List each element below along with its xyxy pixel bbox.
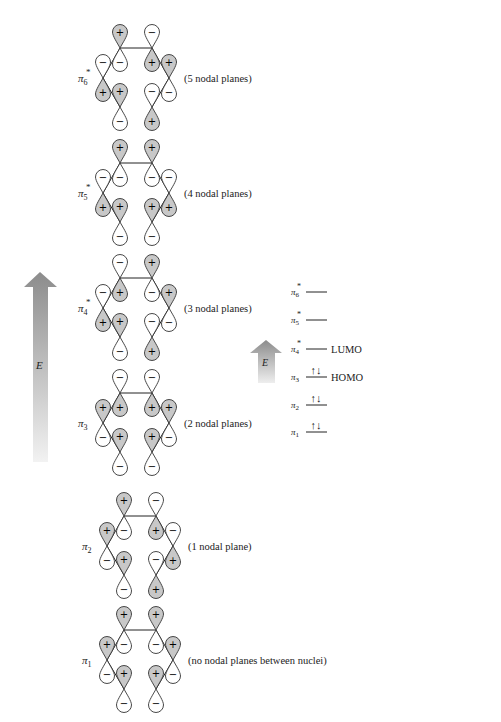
phase-sign: − — [120, 639, 128, 650]
energy-diagram-axis-label: E — [261, 357, 268, 368]
orbital-stack: +−−++−−++−−+π6*(5 nodal planes)+−−++−+−−… — [78, 25, 327, 713]
phase-sign: + — [152, 525, 160, 536]
phase-sign: − — [120, 525, 128, 536]
phase-sign: + — [169, 639, 177, 650]
phase-sign: + — [99, 402, 107, 413]
phase-sign: + — [148, 431, 156, 442]
phase-sign: − — [165, 172, 173, 183]
orbital-label: π3 — [78, 417, 88, 432]
antibonding-star: * — [297, 339, 301, 348]
phase-sign: − — [148, 27, 156, 38]
phase-sign: − — [116, 346, 124, 357]
nodal-plane-note: (4 nodal planes) — [184, 188, 252, 200]
phase-sign: − — [165, 432, 173, 443]
phase-sign: − — [148, 86, 156, 97]
phase-sign: − — [120, 698, 128, 709]
antibonding-star: * — [297, 310, 301, 319]
phase-sign: − — [169, 669, 177, 680]
energy-axis-label: E — [35, 359, 43, 371]
level-tag-lumo: LUMO — [331, 344, 362, 355]
orbital-pi2: +−+−+−−+−+−+π2(1 nodal plane) — [82, 493, 252, 599]
orbital-label: π2 — [82, 540, 92, 555]
phase-sign: + — [116, 201, 124, 212]
level-label: π1 — [291, 427, 300, 439]
nodal-plane-note: (2 nodal planes) — [184, 418, 252, 430]
phase-sign: + — [152, 609, 160, 620]
antibonding-star: * — [297, 282, 301, 291]
phase-sign: + — [120, 609, 128, 620]
phase-sign: − — [165, 87, 173, 98]
phase-sign: − — [116, 116, 124, 127]
phase-sign: + — [99, 87, 107, 98]
phase-sign: − — [116, 172, 124, 183]
phase-sign: + — [148, 116, 156, 127]
phase-sign: − — [148, 231, 156, 242]
energy-level-π6: π6* — [291, 282, 327, 299]
phase-sign: − — [152, 495, 160, 506]
energy-level-π3: π3↑↓HOMO — [291, 364, 364, 384]
phase-sign: − — [103, 555, 111, 566]
phase-sign: + — [116, 402, 124, 413]
phase-sign: − — [99, 432, 107, 443]
phase-sign: − — [148, 461, 156, 472]
antibonding-star: * — [86, 297, 91, 307]
phase-sign: + — [165, 402, 173, 413]
phase-sign: + — [116, 316, 124, 327]
phase-sign: + — [120, 495, 128, 506]
phase-sign: + — [148, 142, 156, 153]
phase-sign: − — [152, 698, 160, 709]
phase-sign: − — [99, 287, 107, 298]
phase-sign: + — [148, 57, 156, 68]
phase-sign: + — [165, 287, 173, 298]
antibonding-star: * — [86, 67, 91, 77]
phase-sign: + — [148, 402, 156, 413]
orbital-pi6: +−−++−−++−−+π6*(5 nodal planes) — [78, 25, 252, 131]
nodal-plane-note: (5 nodal planes) — [184, 73, 252, 85]
energy-level-π1: π1↑↓ — [291, 419, 327, 439]
phase-sign: − — [152, 639, 160, 650]
nodal-plane-note: (no nodal planes between nuclei) — [188, 655, 327, 667]
orbital-pi5: +−−++−+−−++−π5*(4 nodal planes) — [78, 140, 252, 246]
phase-sign: − — [169, 525, 177, 536]
nodal-plane-note: (1 nodal plane) — [188, 541, 252, 553]
phase-sign: + — [116, 86, 124, 97]
level-label: π3 — [291, 372, 300, 384]
orbital-pi3: +−+−−+−++−+−π3(2 nodal planes) — [78, 370, 252, 476]
phase-sign: + — [99, 202, 107, 213]
phase-sign: − — [99, 172, 107, 183]
orbital-label: π1 — [82, 654, 92, 669]
phase-sign: − — [99, 57, 107, 68]
orbital-pi4: +−−+−++−+−−+π4*(3 nodal planes) — [78, 255, 252, 361]
phase-sign: + — [152, 584, 160, 595]
phase-sign: − — [120, 584, 128, 595]
phase-sign: + — [99, 317, 107, 328]
phase-sign: + — [165, 202, 173, 213]
energy-arrow-large: E — [24, 272, 57, 462]
energy-arrow-small: E — [250, 340, 282, 383]
energy-level-π5: π5* — [291, 310, 327, 327]
phase-sign: − — [148, 316, 156, 327]
phase-sign: + — [103, 525, 111, 536]
phase-sign: + — [120, 668, 128, 679]
phase-sign: − — [116, 461, 124, 472]
phase-sign: − — [148, 372, 156, 383]
energy-level-π4: π4*LUMO — [291, 339, 362, 356]
orbital-pi1: +−+−+−+−+−+−π1(no nodal planes between n… — [82, 607, 327, 713]
electron-pair-icon: ↑↓ — [311, 419, 322, 431]
energy-level-π2: π2↑↓ — [291, 392, 327, 412]
level-label: π2 — [291, 400, 300, 412]
electron-pair-icon: ↑↓ — [311, 364, 322, 376]
phase-sign: + — [120, 554, 128, 565]
phase-sign: + — [103, 639, 111, 650]
phase-sign: + — [148, 346, 156, 357]
phase-sign: + — [116, 27, 124, 38]
phase-sign: − — [116, 57, 124, 68]
phase-sign: + — [148, 257, 156, 268]
phase-sign: − — [103, 669, 111, 680]
hexatriene-mo-diagram: E +−−++−−++−−+π6*(5 nodal planes)+−−++−+… — [0, 0, 501, 722]
energy-level-diagram: π6*π5*π4*LUMOπ3↑↓HOMOπ2↑↓π1↑↓ — [291, 282, 364, 439]
phase-sign: + — [169, 555, 177, 566]
electron-pair-icon: ↑↓ — [311, 392, 322, 404]
phase-sign: − — [152, 554, 160, 565]
phase-sign: − — [116, 231, 124, 242]
